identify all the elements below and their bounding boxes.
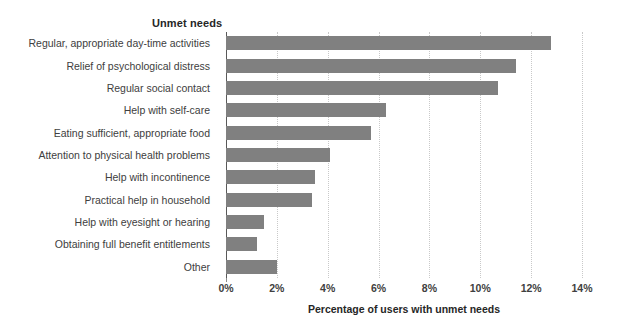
tick-label: 2% [269,282,284,294]
value-axis-tick-labels: 0%2%4%6%8%10%12%14% [226,282,582,298]
category-label: Regular social contact [0,82,210,94]
category-label: Obtaining full benefit entitlements [0,238,210,250]
bar-row [226,77,582,99]
bar[interactable] [226,193,312,207]
category-label: Regular, appropriate day-time activities [0,37,210,49]
bar-row [226,256,582,278]
tick-label: 10% [470,282,491,294]
category-label: Help with incontinence [0,171,210,183]
bar[interactable] [226,126,371,140]
x-axis-title: Percentage of users with unmet needs [226,303,582,315]
tick-label: 0% [218,282,233,294]
bar[interactable] [226,215,264,229]
bar-series [226,32,582,278]
bar-row [226,99,582,121]
bar-row [226,54,582,76]
category-label: Help with eyesight or hearing [0,216,210,228]
bar[interactable] [226,81,498,95]
bar-row [226,121,582,143]
bar[interactable] [226,36,551,50]
category-label: Help with self-care [0,104,210,116]
bar-row [226,144,582,166]
category-axis-labels: Regular, appropriate day-time activities… [0,32,220,278]
bar[interactable] [226,103,386,117]
category-label: Practical help in household [0,194,210,206]
bar-row [226,166,582,188]
tick-label: 4% [320,282,335,294]
bar-row [226,233,582,255]
tick-label: 8% [422,282,437,294]
category-label: Attention to physical health problems [0,149,210,161]
category-label: Relief of psychological distress [0,60,210,72]
gridline [582,32,583,278]
tick-label: 12% [521,282,542,294]
plot-area [226,32,582,278]
chart-title: Unmet needs [152,17,222,29]
bar[interactable] [226,237,257,251]
category-label: Other [0,261,210,273]
chart-container: Unmet needs Regular, appropriate day-tim… [0,0,619,333]
tick-label: 6% [371,282,386,294]
bar[interactable] [226,148,330,162]
bar[interactable] [226,59,516,73]
bar[interactable] [226,170,315,184]
bar-row [226,189,582,211]
bar-row [226,32,582,54]
bar[interactable] [226,260,277,274]
category-label: Eating sufficient, appropriate food [0,127,210,139]
bar-row [226,211,582,233]
tick-label: 14% [571,282,592,294]
